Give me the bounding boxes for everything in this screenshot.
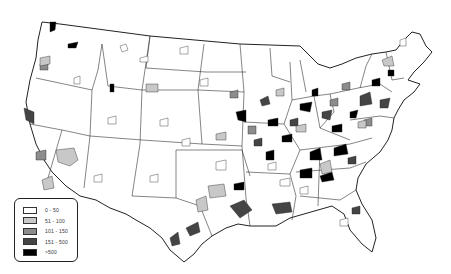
legend-label: >500	[45, 249, 57, 255]
legend-swatch-0-50	[23, 207, 37, 214]
legend-swatch-51-100	[23, 217, 37, 224]
legend-label: 101 - 150	[45, 228, 68, 234]
legend-label: 151 - 500	[45, 239, 68, 245]
legend-swatch-over-500	[23, 249, 37, 256]
legend-label: 0 - 50	[45, 207, 59, 213]
legend-item: >500	[23, 247, 71, 258]
legend-item: 101 - 150	[23, 226, 71, 237]
legend-label: 51 - 100	[45, 218, 65, 224]
legend-swatch-101-150	[23, 228, 37, 235]
legend-item: 151 - 500	[23, 237, 71, 248]
legend-item: 0 - 50	[23, 205, 71, 216]
legend-item: 51 - 100	[23, 216, 71, 227]
legend-swatch-151-500	[23, 238, 37, 245]
us-outline	[26, 22, 432, 262]
map-legend: 0 - 50 51 - 100 101 - 150 151 - 500 >500	[14, 198, 78, 262]
